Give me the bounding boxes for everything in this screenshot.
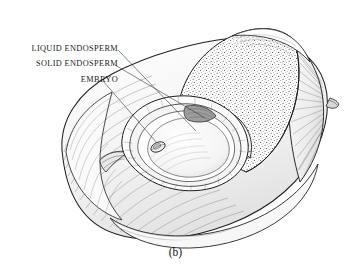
- coconut-figure: LIQUID ENDOSPERM SOLID ENDOSPERM EMBRYO …: [0, 0, 351, 269]
- callout-label-liquid-endosperm: LIQUID ENDOSPERM: [32, 45, 119, 53]
- callout-label-solid-endosperm: SOLID ENDOSPERM: [36, 60, 118, 68]
- callout-label-embryo: EMBRYO: [81, 76, 118, 84]
- coconut-illustration: [0, 0, 351, 269]
- figure-caption: (b): [0, 246, 351, 258]
